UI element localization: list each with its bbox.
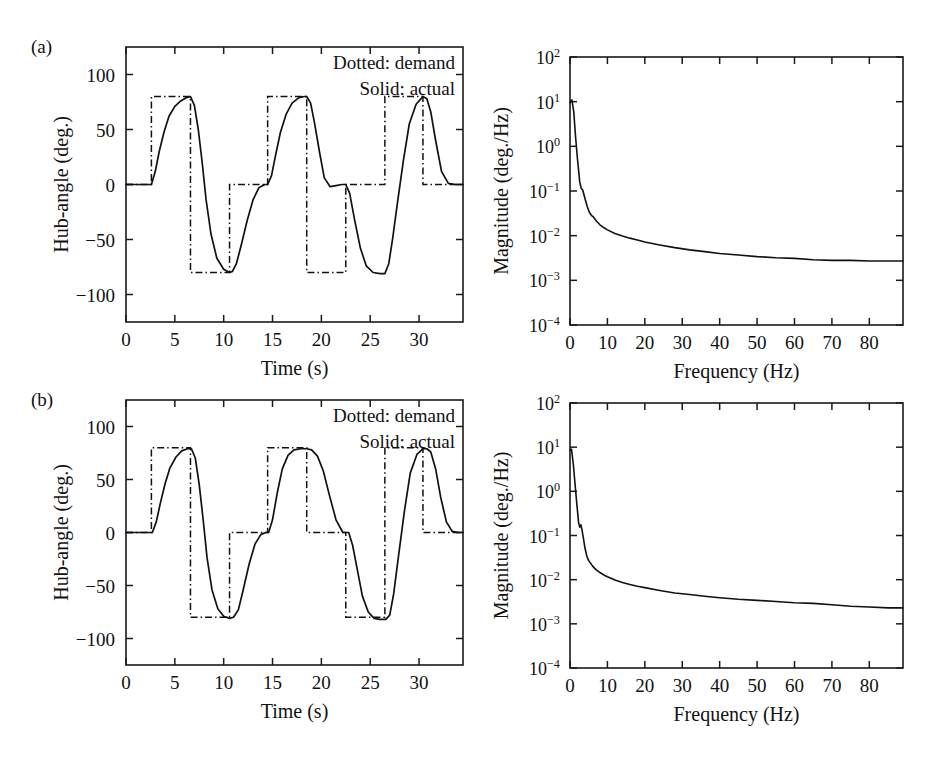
y-tick-exponent: 0 [554,480,560,494]
series-spectrum-line [570,449,903,608]
y-tick-label: 0 [106,175,116,196]
y-tick-label: 10−4 [529,314,560,336]
y-tick-exponent: −3 [547,269,560,283]
y-tick-label: −100 [76,285,115,306]
x-tick-label: 10 [214,329,233,350]
y-tick-exponent: 2 [554,392,560,406]
y-tick-label: 10−4 [529,657,560,679]
y-tick-label: 10−2 [529,569,560,591]
y-tick-label: 101 [536,91,560,113]
x-axis-label: Frequency (Hz) [673,703,799,726]
panel-a-time-series: 051015202530100500−50−100Time (s)Hub-ang… [0,0,470,380]
y-tick-label: 100 [87,65,116,86]
y-tick-exponent: −1 [547,180,560,194]
y-tick-label: 0 [106,523,116,544]
y-tick-label: 50 [96,120,115,141]
x-tick-label: 10 [214,672,233,693]
y-tick-label: 50 [96,470,115,491]
y-tick-exponent: 1 [554,91,560,105]
y-tick-exponent: −2 [547,225,560,239]
y-axis-label: Magnitude (deg./Hz) [490,107,513,275]
x-tick-label: 25 [361,672,380,693]
x-tick-label: 25 [361,329,380,350]
legend-demand-label: Dotted: demand [333,52,455,73]
x-tick-label: 0 [121,672,131,693]
figure-root: (a) 051015202530100500−50−100Time (s)Hub… [0,0,935,770]
y-tick-label: 100 [87,417,116,438]
legend-demand-label: Dotted: demand [333,405,455,426]
x-tick-label: 0 [565,332,575,353]
x-tick-label: 20 [312,329,331,350]
x-tick-label: 15 [263,672,282,693]
chart-b-spectrum: 0102030405060708010210110010−110−210−310… [465,353,935,733]
y-tick-label: −50 [85,230,115,251]
panel-b-spectrum: 0102030405060708010210110010−110−210−310… [465,353,935,733]
y-axis-label: Magnitude (deg./Hz) [490,452,513,620]
x-tick-label: 70 [822,332,841,353]
y-tick-label: 100 [536,480,560,502]
y-tick-exponent: −1 [547,525,560,539]
x-tick-label: 30 [410,329,429,350]
x-tick-label: 80 [860,332,879,353]
x-tick-label: 20 [312,672,331,693]
x-tick-label: 5 [170,672,180,693]
y-tick-exponent: 2 [554,46,560,60]
series-spectrum-line [570,100,903,261]
series-demand-line [126,97,463,273]
y-tick-label: 10−1 [529,525,560,547]
legend-actual-label: Solid: actual [359,78,455,99]
y-tick-label: 102 [536,392,560,414]
y-tick-label: −50 [85,576,115,597]
y-axis-label: Hub-angle (deg.) [50,464,73,601]
series-actual-line [126,449,463,620]
x-tick-label: 0 [121,329,131,350]
x-tick-label: 60 [785,675,804,696]
panel-a-spectrum: 0102030405060708010210110010−110−210−310… [465,0,935,380]
y-tick-label: 10−2 [529,225,560,247]
x-tick-label: 15 [263,329,282,350]
y-tick-label: 101 [536,436,560,458]
x-tick-label: 80 [860,675,879,696]
x-tick-label: 30 [410,672,429,693]
y-tick-label: 10−3 [529,269,560,291]
chart-b-time: 051015202530100500−50−100Time (s)Hub-ang… [0,353,470,733]
chart-a-time: 051015202530100500−50−100Time (s)Hub-ang… [0,0,470,380]
y-tick-exponent: 0 [554,135,560,149]
y-axis-label: Hub-angle (deg.) [50,116,73,253]
chart-a-spectrum: 0102030405060708010210110010−110−210−310… [465,0,935,380]
x-tick-label: 40 [710,332,729,353]
y-tick-label: 100 [536,135,560,157]
series-actual-line [126,97,463,274]
x-tick-label: 30 [673,675,692,696]
y-tick-label: 10−3 [529,613,560,635]
plot-frame [570,57,903,325]
series-demand-line [126,448,463,618]
y-tick-label: −100 [76,629,115,650]
y-tick-label: 10−1 [529,180,560,202]
x-tick-label: 50 [748,675,767,696]
x-tick-label: 20 [635,675,654,696]
legend-actual-label: Solid: actual [359,431,455,452]
x-tick-label: 40 [710,675,729,696]
x-tick-label: 10 [598,332,617,353]
x-tick-label: 50 [748,332,767,353]
y-tick-exponent: 1 [554,436,560,450]
x-tick-label: 70 [822,675,841,696]
x-tick-label: 10 [598,675,617,696]
x-axis-label: Time (s) [261,700,329,723]
y-tick-exponent: −4 [547,314,560,328]
x-tick-label: 0 [565,675,575,696]
x-tick-label: 20 [635,332,654,353]
y-tick-exponent: −3 [547,613,560,627]
panel-b-time-series: 051015202530100500−50−100Time (s)Hub-ang… [0,353,470,733]
y-tick-exponent: −2 [547,569,560,583]
x-tick-label: 60 [785,332,804,353]
y-tick-exponent: −4 [547,657,560,671]
x-tick-label: 30 [673,332,692,353]
x-tick-label: 5 [170,329,180,350]
plot-frame [570,403,903,668]
y-tick-label: 102 [536,46,560,68]
